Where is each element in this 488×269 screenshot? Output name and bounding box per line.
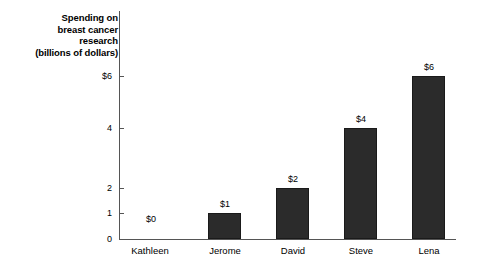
chart-screenshot: Spending on breast cancer research (bill… xyxy=(0,0,488,269)
bar xyxy=(412,76,445,239)
y-tick-mark xyxy=(119,128,124,129)
bar-value-label: $6 xyxy=(399,63,459,72)
x-axis-line xyxy=(119,239,456,240)
bar xyxy=(276,188,309,239)
y-tick-label: 4 xyxy=(72,124,112,133)
category-label: Lena xyxy=(389,245,469,256)
y-tick-mark xyxy=(119,213,124,214)
y-tick-label: $6 xyxy=(72,72,112,81)
y-tick-mark xyxy=(119,76,124,77)
bar xyxy=(208,213,241,239)
bar-value-label: $4 xyxy=(331,115,391,124)
bar-value-label: $0 xyxy=(121,215,181,224)
bar xyxy=(344,128,377,239)
category-label: Kathleen xyxy=(110,245,190,256)
axis-title-line-2: breast cancer xyxy=(18,24,118,36)
y-tick-label: 0 xyxy=(72,235,112,244)
axis-title-line-3: research xyxy=(18,35,118,47)
y-axis-line xyxy=(119,11,120,239)
axis-title-line-4: (billions of dollars) xyxy=(18,47,118,59)
bar-value-label: $1 xyxy=(195,200,255,209)
axis-title-line-1: Spending on xyxy=(18,12,118,24)
y-tick-mark xyxy=(119,188,124,189)
y-tick-label: 1 xyxy=(72,209,112,218)
bar-value-label: $2 xyxy=(263,175,323,184)
y-tick-label: 2 xyxy=(72,184,112,193)
y-tick-mark xyxy=(119,239,124,240)
chart-axis-title: Spending on breast cancer research (bill… xyxy=(18,12,118,58)
